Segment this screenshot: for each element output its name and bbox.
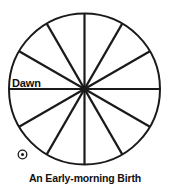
astrology-birth-chart-figure: Dawn An Early-morning Birth bbox=[0, 0, 170, 189]
sun-icon bbox=[18, 150, 27, 159]
dawn-horizon-label: Dawn bbox=[12, 77, 41, 89]
figure-caption: An Early-morning Birth bbox=[0, 172, 170, 185]
